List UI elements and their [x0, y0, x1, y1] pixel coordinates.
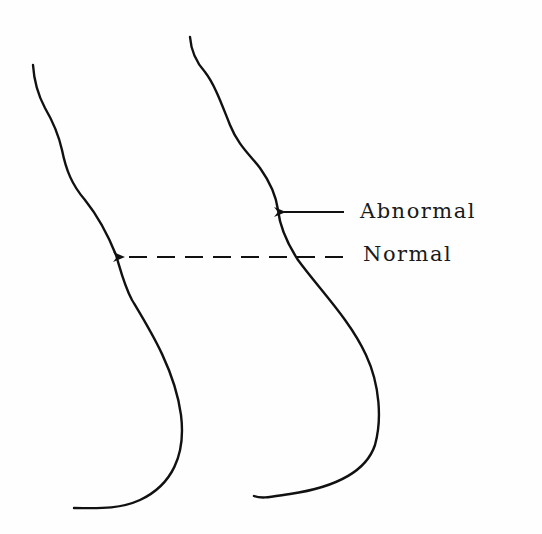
normal-profile-curve: [33, 65, 182, 508]
diagram-canvas: Abnormal Normal: [0, 0, 542, 534]
abnormal-profile-curve: [190, 37, 379, 497]
diagram-drawing: [0, 0, 542, 534]
normal-label: Normal: [363, 242, 452, 266]
abnormal-label: Abnormal: [360, 199, 476, 223]
